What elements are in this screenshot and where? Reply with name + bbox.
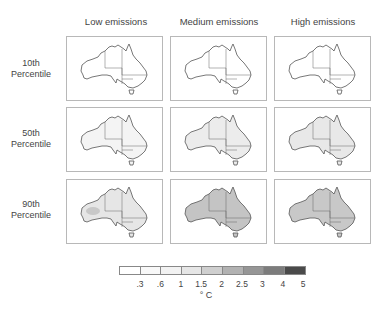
australia-map	[67, 180, 162, 243]
colorbar-segment	[202, 267, 223, 274]
colorbar-tick-label: 2	[219, 279, 224, 289]
map-panel-90th-high	[274, 179, 371, 244]
colorbar-segment	[182, 267, 203, 274]
map-panel-10th-low	[66, 36, 163, 101]
map-panel-50th-medium	[170, 107, 267, 172]
colorbar-tick-label: .6	[157, 279, 164, 289]
australia-map	[67, 108, 162, 171]
column-title-low: Low emissions	[66, 16, 166, 27]
row-label-10th: 10thPercentile	[0, 58, 62, 80]
australia-map	[171, 37, 266, 100]
colorbar-tick-label: .3	[136, 279, 143, 289]
colorbar-tick-label: 1	[178, 279, 183, 289]
australia-map	[275, 180, 370, 243]
colorbar-tick-label: 5	[301, 279, 306, 289]
colorbar-tick-label: 3	[260, 279, 265, 289]
colorbar-segment	[223, 267, 244, 274]
australia-map	[275, 37, 370, 100]
map-panel-90th-low	[66, 179, 163, 244]
map-panel-10th-medium	[170, 36, 267, 101]
colorbar	[119, 266, 306, 275]
colorbar-segment	[161, 267, 182, 274]
row-label-90th: 90thPercentile	[0, 199, 62, 221]
colorbar-tick-label: 4	[280, 279, 285, 289]
map-panel-10th-high	[274, 36, 371, 101]
colorbar-unit: ° C	[200, 290, 213, 300]
colorbar-segment	[264, 267, 285, 274]
map-panel-90th-medium	[170, 179, 267, 244]
colorbar-tick-label: 1.5	[195, 279, 207, 289]
australia-map	[171, 180, 266, 243]
australia-map	[275, 108, 370, 171]
row-label-50th: 50thPercentile	[0, 128, 62, 150]
colorbar-segment	[285, 267, 306, 274]
australia-map	[171, 108, 266, 171]
australia-map	[67, 37, 162, 100]
colorbar-segment	[141, 267, 162, 274]
colorbar-segment	[244, 267, 265, 274]
column-title-high: High emissions	[273, 16, 373, 27]
map-panel-50th-low	[66, 107, 163, 172]
colorbar-segment	[120, 267, 141, 274]
map-panel-50th-high	[274, 107, 371, 172]
colorbar-tick-label: 2.5	[236, 279, 248, 289]
column-title-medium: Medium emissions	[169, 16, 269, 27]
